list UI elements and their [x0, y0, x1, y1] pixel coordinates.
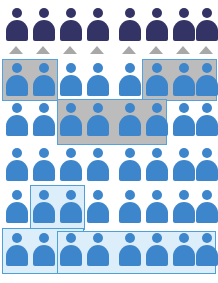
person-icon-r5c6[interactable] [146, 190, 168, 223]
person-head-icon [66, 233, 76, 243]
person-icon-r6c6[interactable] [146, 233, 168, 266]
person-head-icon [125, 148, 135, 158]
person-body-icon [196, 202, 218, 223]
person-body-icon [33, 245, 55, 266]
person-icon-r4c8[interactable] [196, 148, 218, 181]
person-icon-r5c8[interactable] [196, 190, 218, 223]
person-icon-r3c3[interactable] [60, 103, 82, 136]
person-icon-r5c5[interactable] [119, 190, 141, 223]
person-icon-r1c1[interactable] [6, 8, 28, 41]
person-icon-r2c1[interactable] [6, 63, 28, 96]
person-body-icon [173, 160, 195, 181]
person-body-icon [6, 245, 28, 266]
person-icon-r2c4[interactable] [87, 63, 109, 96]
person-body-icon [60, 160, 82, 181]
person-icon-r4c7[interactable] [173, 148, 195, 181]
person-head-icon [93, 190, 103, 200]
person-icon-r2c6[interactable] [146, 63, 168, 96]
person-icon-r3c2[interactable] [33, 103, 55, 136]
person-head-icon [39, 190, 49, 200]
person-body-icon [6, 20, 28, 41]
person-icon-r1c6[interactable] [146, 8, 168, 41]
person-body-icon [173, 245, 195, 266]
person-icon-r1c4[interactable] [87, 8, 109, 41]
person-icon-r6c5[interactable] [119, 233, 141, 266]
person-head-icon [125, 8, 135, 18]
person-icon-r5c4[interactable] [87, 190, 109, 223]
person-head-icon [202, 148, 212, 158]
person-icon-r4c4[interactable] [87, 148, 109, 181]
person-head-icon [66, 148, 76, 158]
person-head-icon [12, 8, 22, 18]
person-icon-r5c3[interactable] [60, 190, 82, 223]
person-body-icon [6, 160, 28, 181]
person-icon-r1c2[interactable] [33, 8, 55, 41]
person-icon-r1c7[interactable] [173, 8, 195, 41]
person-icon-r4c1[interactable] [6, 148, 28, 181]
person-body-icon [87, 20, 109, 41]
person-body-icon [146, 202, 168, 223]
person-icon-r4c5[interactable] [119, 148, 141, 181]
person-icon-r5c2[interactable] [33, 190, 55, 223]
person-head-icon [202, 63, 212, 73]
person-body-icon [196, 115, 218, 136]
person-body-icon [87, 202, 109, 223]
person-head-icon [66, 190, 76, 200]
person-icon-r3c1[interactable] [6, 103, 28, 136]
triangle-marker-icon-1 [9, 46, 23, 54]
person-body-icon [173, 202, 195, 223]
person-head-icon [93, 233, 103, 243]
person-icon-r3c5[interactable] [119, 103, 141, 136]
person-head-icon [152, 103, 162, 113]
person-icon-r1c5[interactable] [119, 8, 141, 41]
person-icon-r3c4[interactable] [87, 103, 109, 136]
person-head-icon [125, 103, 135, 113]
person-icon-r5c7[interactable] [173, 190, 195, 223]
person-icon-r1c3[interactable] [60, 8, 82, 41]
person-icon-r4c2[interactable] [33, 148, 55, 181]
person-icon-r3c6[interactable] [146, 103, 168, 136]
person-body-icon [60, 75, 82, 96]
triangle-marker-icon-5 [122, 46, 136, 54]
person-head-icon [125, 233, 135, 243]
person-icon-r3c7[interactable] [173, 103, 195, 136]
person-head-icon [202, 233, 212, 243]
person-head-icon [93, 63, 103, 73]
triangle-marker-icon-7 [176, 46, 190, 54]
person-icon-r4c6[interactable] [146, 148, 168, 181]
person-icon-r3c8[interactable] [196, 103, 218, 136]
person-icon-r2c3[interactable] [60, 63, 82, 96]
person-icon-r6c2[interactable] [33, 233, 55, 266]
person-icon-r6c1[interactable] [6, 233, 28, 266]
person-body-icon [33, 115, 55, 136]
person-body-icon [87, 160, 109, 181]
person-body-icon [173, 115, 195, 136]
person-body-icon [146, 75, 168, 96]
person-icon-r4c3[interactable] [60, 148, 82, 181]
person-icon-r2c7[interactable] [173, 63, 195, 96]
triangle-marker-icon-6 [149, 46, 163, 54]
person-body-icon [119, 245, 141, 266]
person-body-icon [173, 20, 195, 41]
person-head-icon [202, 8, 212, 18]
person-icon-r6c4[interactable] [87, 233, 109, 266]
person-icon-r2c2[interactable] [33, 63, 55, 96]
person-icon-r6c8[interactable] [196, 233, 218, 266]
person-icon-r2c8[interactable] [196, 63, 218, 96]
triangle-marker-icon-4 [90, 46, 104, 54]
person-body-icon [87, 245, 109, 266]
person-icon-r6c3[interactable] [60, 233, 82, 266]
person-icon-r1c8[interactable] [196, 8, 218, 41]
person-body-icon [146, 160, 168, 181]
triangle-marker-icon-8 [199, 46, 213, 54]
person-icon-r2c5[interactable] [119, 63, 141, 96]
person-head-icon [12, 63, 22, 73]
person-head-icon [152, 233, 162, 243]
person-head-icon [202, 190, 212, 200]
person-icon-r5c1[interactable] [6, 190, 28, 223]
person-body-icon [33, 160, 55, 181]
person-head-icon [125, 190, 135, 200]
person-head-icon [125, 63, 135, 73]
person-icon-r6c7[interactable] [173, 233, 195, 266]
triangle-marker-icon-2 [36, 46, 50, 54]
